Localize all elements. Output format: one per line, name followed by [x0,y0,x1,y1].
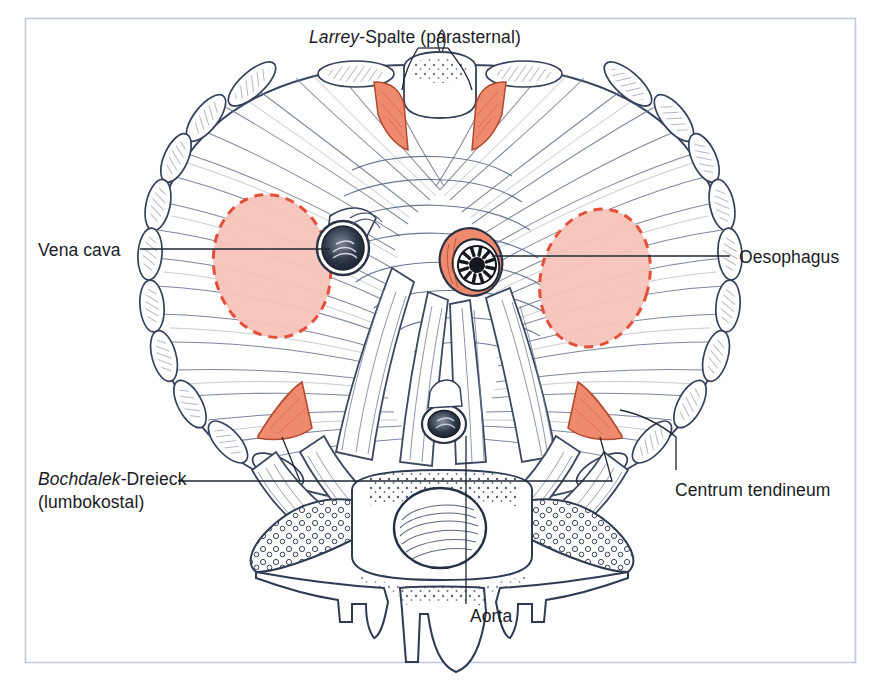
label-bochdalek-rest: -Dreieck [121,469,187,489]
label-bochdalek-dreieck: Bochdalek-Dreieck (lumbokostal) [38,468,187,514]
label-oesophagus: Oesophagus [739,246,839,269]
label-bochdalek-line2: (lumbokostal) [38,491,187,514]
label-centrum-tendineum-text: Centrum tendineum [675,480,830,500]
diaphragm-illustration [0,0,880,684]
label-larrey-italic: Larrey [309,27,359,47]
label-aorta: Aorta [470,605,512,628]
label-vena-cava-text: Vena cava [38,240,121,260]
anatomy-figure: Larrey-Spalte (parasternal) Vena cava Oe… [0,0,880,684]
label-aorta-text: Aorta [470,606,512,626]
label-oesophagus-text: Oesophagus [739,247,839,267]
label-larrey-spalte: Larrey-Spalte (parasternal) [309,26,521,49]
label-vena-cava: Vena cava [38,239,121,262]
label-centrum-tendineum: Centrum tendineum [675,479,830,502]
label-bochdalek-line1: Bochdalek-Dreieck [38,468,187,491]
label-larrey-rest: -Spalte (parasternal) [359,27,521,47]
label-bochdalek-italic: Bochdalek [38,469,121,489]
